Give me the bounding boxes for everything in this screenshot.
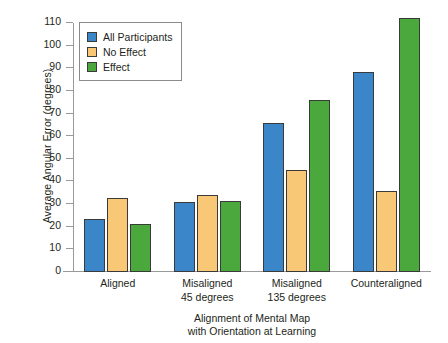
x-axis-category-label-line: Misaligned bbox=[252, 277, 342, 291]
y-axis-tick: 10 bbox=[66, 248, 73, 249]
y-axis-tick: 0 bbox=[66, 271, 73, 272]
x-axis-category-label-line: 45 degrees bbox=[163, 291, 253, 305]
bar[interactable] bbox=[174, 202, 195, 272]
y-axis-tick-label: 90 bbox=[49, 60, 61, 72]
y-axis-tick-label: 70 bbox=[49, 106, 61, 118]
bar[interactable] bbox=[220, 201, 241, 272]
bar[interactable] bbox=[353, 72, 374, 272]
y-axis-tick-label: 100 bbox=[43, 38, 61, 50]
y-axis-tick-label: 40 bbox=[49, 173, 61, 185]
legend-item-label: All Participants bbox=[103, 31, 172, 43]
y-axis-tick-label: 80 bbox=[49, 83, 61, 95]
bar[interactable] bbox=[130, 224, 151, 272]
legend-color-swatch bbox=[87, 32, 97, 42]
bar[interactable] bbox=[309, 100, 330, 272]
bar[interactable] bbox=[84, 219, 105, 272]
bar[interactable] bbox=[399, 18, 420, 272]
x-axis-category-labels: AlignedMisaligned45 degreesMisaligned135… bbox=[73, 277, 431, 304]
x-axis-category-label-line: Aligned bbox=[73, 277, 163, 291]
x-axis-title-line-2: with Orientation at Learning bbox=[73, 325, 431, 338]
bar[interactable] bbox=[107, 198, 128, 272]
legend-color-swatch bbox=[87, 62, 97, 72]
y-axis-tick: 30 bbox=[66, 203, 73, 204]
y-axis-title: Average Angular Error (degrees) bbox=[41, 21, 53, 271]
legend-item-label: No Effect bbox=[103, 46, 146, 58]
bar-group bbox=[342, 23, 432, 272]
x-axis-category-label: Misaligned135 degrees bbox=[252, 277, 342, 304]
x-axis-category-label: Counteraligned bbox=[342, 277, 432, 304]
x-axis-category-label: Misaligned45 degrees bbox=[163, 277, 253, 304]
legend-item[interactable]: No Effect bbox=[87, 44, 172, 59]
x-axis-title: Alignment of Mental Map with Orientation… bbox=[73, 312, 431, 338]
y-axis-tick: 50 bbox=[66, 158, 73, 159]
y-axis-tick-label: 60 bbox=[49, 128, 61, 140]
y-axis-tick-label: 20 bbox=[49, 219, 61, 231]
legend-item-label: Effect bbox=[103, 61, 130, 73]
x-axis-category-label-line: Counteraligned bbox=[342, 277, 432, 291]
legend-color-swatch bbox=[87, 47, 97, 57]
bar-group bbox=[252, 23, 342, 272]
y-axis-tick-label: 50 bbox=[49, 151, 61, 163]
y-axis-tick: 70 bbox=[66, 113, 73, 114]
y-axis-tick-label: 0 bbox=[55, 264, 61, 276]
bar-chart-figure: Average Angular Error (degrees) 01020304… bbox=[0, 0, 448, 343]
y-axis-tick: 100 bbox=[66, 45, 73, 46]
y-axis-tick: 60 bbox=[66, 135, 73, 136]
x-axis-title-line-1: Alignment of Mental Map bbox=[73, 312, 431, 325]
bar[interactable] bbox=[197, 195, 218, 272]
y-axis-tick: 40 bbox=[66, 180, 73, 181]
y-axis-tick: 80 bbox=[66, 90, 73, 91]
legend-item[interactable]: Effect bbox=[87, 59, 172, 74]
chart-legend: All ParticipantsNo EffectEffect bbox=[79, 22, 182, 81]
y-axis-tick-label: 110 bbox=[44, 15, 61, 27]
bar[interactable] bbox=[286, 170, 307, 272]
x-axis-category-label: Aligned bbox=[73, 277, 163, 304]
bar[interactable] bbox=[263, 123, 284, 272]
x-axis-category-label-line: 135 degrees bbox=[252, 291, 342, 305]
y-axis-tick: 90 bbox=[66, 67, 73, 68]
y-axis-tick-label: 10 bbox=[49, 241, 61, 253]
legend-item[interactable]: All Participants bbox=[87, 29, 172, 44]
y-axis-tick: 20 bbox=[66, 226, 73, 227]
y-axis-tick: 110 bbox=[66, 22, 73, 23]
y-axis-tick-label: 30 bbox=[49, 196, 61, 208]
x-axis-category-label-line: Misaligned bbox=[163, 277, 253, 291]
bar[interactable] bbox=[376, 191, 397, 272]
